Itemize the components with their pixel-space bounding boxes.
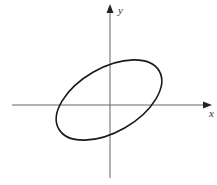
y-axis-arrow-icon	[107, 4, 114, 13]
x-axis-label: x	[208, 107, 214, 119]
y-axis-label: y	[117, 4, 123, 16]
ellipse-curve	[43, 43, 175, 156]
coordinate-diagram: x y	[0, 0, 217, 185]
